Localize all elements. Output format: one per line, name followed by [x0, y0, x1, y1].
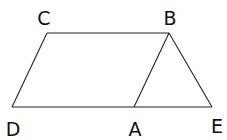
- vertex-label-e: E: [211, 115, 223, 137]
- vertex-label-d: D: [6, 118, 21, 140]
- geometry-diagram: CBDAE: [0, 0, 227, 140]
- segment-BE: [169, 33, 212, 107]
- vertex-label-c: C: [37, 7, 50, 29]
- segment-BA: [134, 33, 169, 107]
- segment-CD: [12, 33, 47, 107]
- segments: [12, 33, 212, 107]
- vertex-label-b: B: [163, 7, 176, 29]
- vertex-labels: CBDAE: [6, 7, 223, 140]
- vertex-label-a: A: [129, 118, 142, 140]
